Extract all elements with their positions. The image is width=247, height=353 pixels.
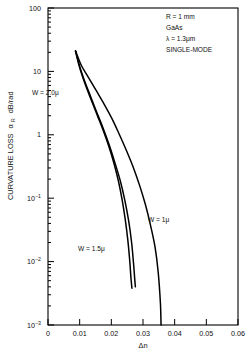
x-tick-label: 0.06 [231, 329, 245, 338]
y-axis-title-unit: dB/rad [6, 91, 15, 113]
annotation-radius: R = 1 mm [166, 13, 195, 20]
label-w15: W = 1.5μ [78, 245, 105, 253]
x-tick-label: 0.04 [168, 329, 182, 338]
x-tick-label: 0.03 [136, 329, 150, 338]
y-tick-label: 1 [37, 130, 41, 139]
annotation-wavelength: λ = 1.3μm [166, 35, 196, 43]
x-axis-title: Δn [138, 341, 147, 350]
y-tick-label: 100 [29, 4, 41, 13]
x-tick-label: 0.05 [199, 329, 213, 338]
annotation-material: GaAs [166, 24, 183, 31]
y-axis-title-main: CURVATURE LOSS [6, 133, 15, 200]
figure-curvature-loss-chart: 10010110−110−210−3 00.010.020.030.040.05… [0, 0, 247, 353]
x-tick-label: 0 [46, 329, 50, 338]
label-w20: W = 2.0μ [32, 89, 59, 97]
y-axis-title-subscript: R [10, 118, 16, 122]
x-tick-label: 0.02 [104, 329, 118, 338]
label-w1: W = 1μ [148, 216, 169, 224]
annotation-mode: SINGLE-MODE [166, 46, 213, 53]
y-tick-label: 10 [33, 67, 41, 76]
chart-canvas: 10010110−110−210−3 00.010.020.030.040.05… [0, 0, 247, 353]
x-tick-label: 0.01 [73, 329, 87, 338]
y-axis-title-symbol: α [6, 123, 15, 128]
